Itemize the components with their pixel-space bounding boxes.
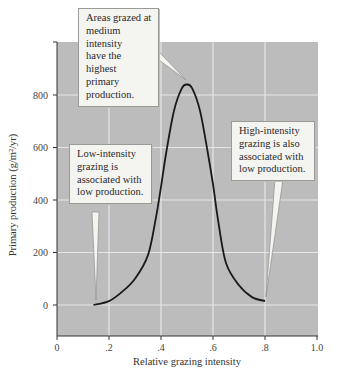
callout-high: High-intensity grazing is also associate… <box>231 121 315 181</box>
callout-peak-line: production. <box>86 89 153 102</box>
y-tick-label: 0 <box>43 300 48 311</box>
callout-peak-line: primary <box>86 76 153 89</box>
x-axis-ticks: 0.2.4.6.81.0 <box>55 336 324 353</box>
callout-low-line: associated with <box>77 174 146 187</box>
callout-high-line: grazing is also <box>239 138 309 151</box>
x-tick-label: .2 <box>105 342 113 353</box>
y-axis-ticks: 0200400600800 <box>33 90 57 311</box>
y-tick-label: 200 <box>33 247 48 258</box>
y-tick-label: 400 <box>33 195 48 206</box>
callout-high-line: associated with <box>239 151 309 164</box>
callout-low-line: low production. <box>77 186 146 199</box>
x-tick-label: 1.0 <box>311 342 324 353</box>
callout-peak-line: have the highest <box>86 50 153 76</box>
callout-high-line: High-intensity <box>239 125 309 138</box>
x-tick-label: 0 <box>55 342 60 353</box>
callout-peak-line: medium intensity <box>86 25 153 51</box>
callout-low-line: grazing is <box>77 161 146 174</box>
y-tick-label: 800 <box>33 90 48 101</box>
callout-low-line: Low-intensity <box>77 148 146 161</box>
x-axis-title: Relative grazing intensity <box>133 356 242 367</box>
callout-peak-line: Areas grazed at <box>86 12 153 25</box>
callout-high-line: low production. <box>239 163 309 176</box>
x-tick-label: .8 <box>261 342 269 353</box>
callout-low: Low-intensity grazing is associated with… <box>69 144 152 204</box>
y-tick-label: 600 <box>33 142 48 153</box>
x-tick-label: .6 <box>209 342 217 353</box>
chart: 0.2.4.6.81.0 0200400600800 Relative graz… <box>0 0 343 382</box>
callout-peak: Areas grazed at medium intensity have th… <box>78 8 159 107</box>
y-axis-title: Primary production (g/m²/yr) <box>7 133 19 256</box>
x-tick-label: .4 <box>157 342 165 353</box>
